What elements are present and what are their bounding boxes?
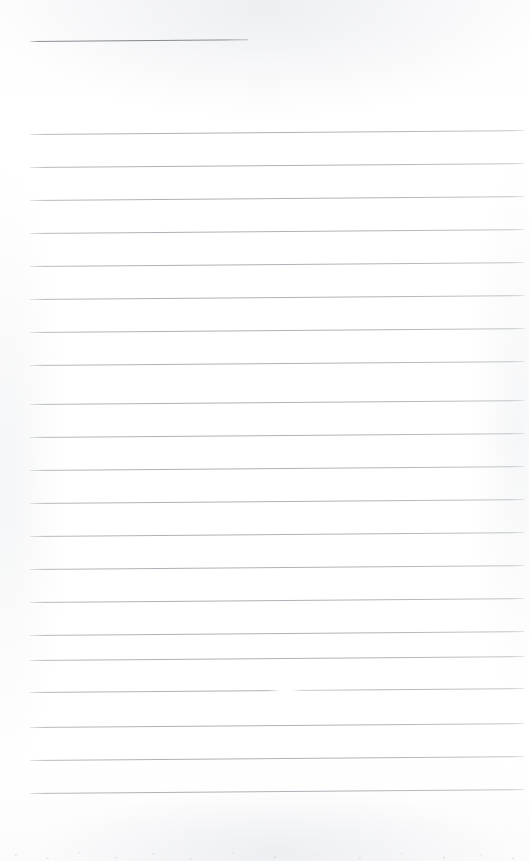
rule-21: [30, 789, 524, 794]
rule-14: [30, 565, 524, 570]
rule-20: [30, 756, 524, 761]
rule-3: [30, 196, 524, 201]
rule-7: [30, 328, 524, 333]
rule-13: [30, 532, 524, 537]
rule-12: [30, 499, 524, 504]
rule-16: [30, 631, 524, 636]
scan-edge-speckle: [0, 833, 529, 861]
rule-5: [30, 262, 524, 267]
heading-rule: [30, 39, 248, 42]
rule-17: [30, 656, 524, 661]
rule-4: [30, 229, 524, 234]
rule-1: [30, 130, 524, 135]
rule-18: [30, 688, 524, 693]
rule-15: [30, 598, 524, 603]
rule-8: [30, 361, 524, 366]
rule-19: [30, 723, 524, 728]
rule-9: [30, 400, 524, 405]
rule-6: [30, 295, 524, 300]
rule-2: [30, 163, 524, 168]
scanned-page: [0, 0, 529, 861]
rule-10: [30, 433, 524, 438]
paper-texture: [0, 0, 529, 861]
rule-11: [30, 466, 524, 471]
